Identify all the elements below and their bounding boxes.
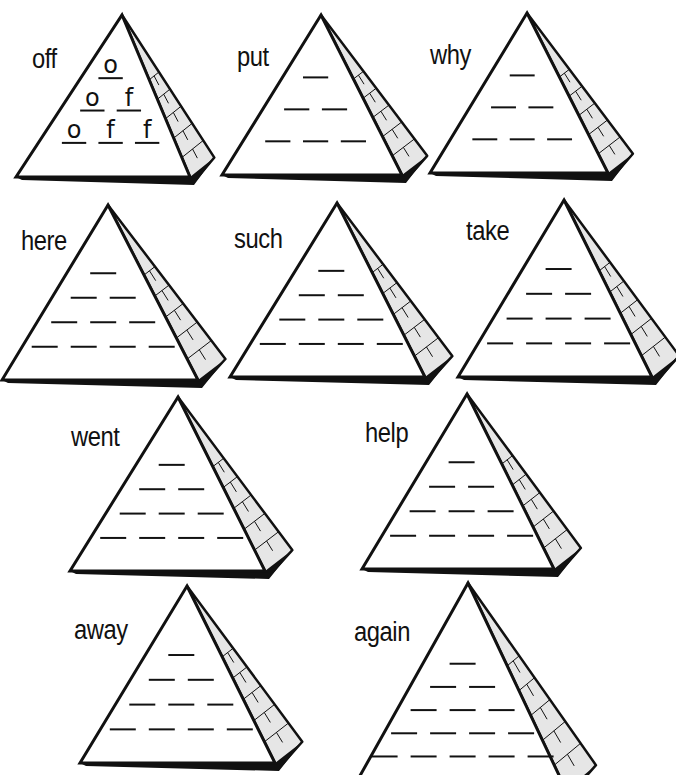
worksheet: oofoffoffputwhyheresuchtakewenthelpawaya…	[0, 0, 676, 775]
pyramid-drawing	[0, 0, 676, 775]
pyramid-word-label: again	[354, 619, 410, 646]
